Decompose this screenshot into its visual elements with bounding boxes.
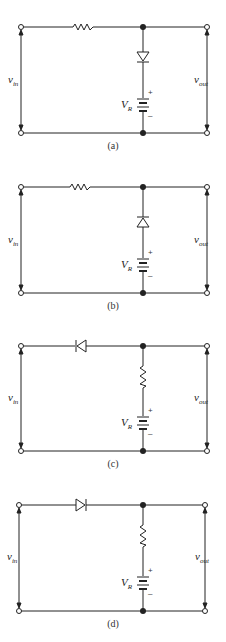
vr-label: VR xyxy=(121,416,132,431)
minus-sign: – xyxy=(148,429,152,438)
circuit-b-schematic xyxy=(0,160,226,320)
vin-label: vin xyxy=(7,550,17,565)
circuit-panel-c: vin vout VR + – (c) xyxy=(0,320,226,480)
vin-label: vin xyxy=(8,391,18,406)
circuit-panel-a: vin vout VR + – (a) xyxy=(0,0,226,160)
caption: (d) xyxy=(0,618,226,629)
caption: (c) xyxy=(0,458,226,469)
vout-label: vout xyxy=(194,233,208,248)
vr-label: VR xyxy=(121,258,132,273)
caption: (b) xyxy=(0,300,226,311)
vin-label: vin xyxy=(8,233,18,248)
vout-label: vout xyxy=(194,73,208,88)
vout-label: vout xyxy=(194,391,208,406)
plus-sign: + xyxy=(148,566,153,575)
minus-sign: – xyxy=(148,271,152,280)
vin-label: vin xyxy=(8,73,18,88)
minus-sign: – xyxy=(148,589,152,598)
caption: (a) xyxy=(0,140,226,151)
vr-label: VR xyxy=(121,576,132,591)
circuit-a-schematic xyxy=(0,0,226,160)
minus-sign: – xyxy=(148,111,152,120)
plus-sign: + xyxy=(148,248,153,257)
circuit-c-schematic xyxy=(0,320,226,480)
plus-sign: + xyxy=(148,88,153,97)
circuit-panel-b: vin vout VR + – (b) xyxy=(0,160,226,320)
vout-label: vout xyxy=(195,550,209,565)
vr-label: VR xyxy=(121,98,132,113)
circuit-panel-d: vin vout VR + – (d) xyxy=(0,480,226,640)
plus-sign: + xyxy=(148,406,153,415)
